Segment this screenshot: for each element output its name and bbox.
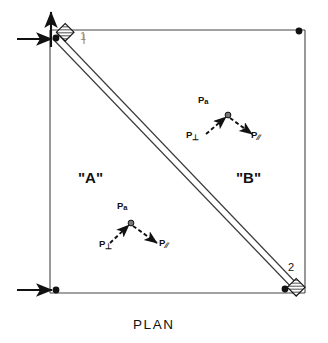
region-label-b: "B" (236, 170, 261, 185)
force-label-p-alpha-upper: Pa (198, 95, 209, 106)
node-dot-top-right (296, 28, 303, 35)
force-label-p-alpha-lower: Pa (117, 201, 128, 212)
vector-p-parallel-lower (133, 226, 157, 243)
force-label-subscript: a (204, 97, 208, 106)
reaction-arrows-top-left (17, 12, 52, 47)
force-origin-lower (128, 220, 134, 226)
force-triad-upper (206, 112, 252, 134)
figure-caption: PLAN (133, 318, 175, 332)
node-dot-top-left (53, 35, 60, 42)
force-label-subscript: ⊥ (192, 133, 199, 142)
force-label-subscript: ⊥ (105, 242, 112, 251)
force-label-p-perp-upper: P⊥ (186, 130, 199, 142)
frame-outline (50, 30, 305, 293)
force-label-p-parallel-upper: P∕∕ (251, 130, 260, 142)
vector-p-perp-lower (110, 225, 129, 243)
node-dot-bottom-left (53, 287, 60, 294)
diagonal-wall-band (53, 33, 301, 292)
node-label-1: 1 (80, 31, 86, 42)
force-triad-lower (110, 220, 157, 243)
force-label-p-parallel-lower: P∕∕ (159, 238, 168, 250)
plan-diagram: "A" "B" 1 2 Pa P⊥ P∕∕ Pa P⊥ P∕∕ PLAN (0, 0, 328, 343)
force-label-subscript: ∕∕ (257, 133, 260, 142)
vector-p-parallel-upper (230, 118, 252, 134)
plan-diagram-svg (0, 0, 328, 343)
node-label-2: 2 (288, 262, 294, 273)
force-label-p-perp-lower: P⊥ (99, 239, 112, 251)
force-label-subscript: ∕∕ (165, 241, 168, 250)
vector-p-perp-upper (206, 117, 226, 134)
force-label-subscript: a (123, 203, 127, 212)
force-origin-upper (225, 112, 231, 118)
region-label-a: "A" (78, 170, 103, 185)
